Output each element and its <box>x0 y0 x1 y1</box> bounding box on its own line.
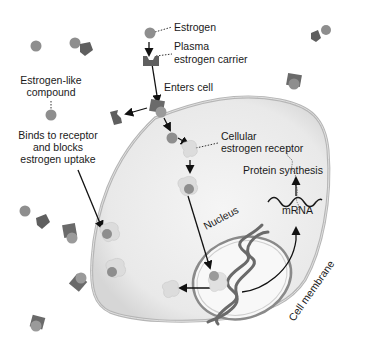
label-estrogen-receptor: estrogen receptor <box>221 142 304 154</box>
estrogen-like-compound-icon <box>46 110 57 121</box>
carrier-icon <box>36 214 50 229</box>
carrier-icon <box>80 42 93 56</box>
estrogen-molecule-icon <box>20 206 31 217</box>
estrogen-molecule-icon <box>76 273 87 284</box>
label-binds-to-receptor: Binds to receptor <box>18 129 98 141</box>
estrogen-molecule-icon <box>321 25 331 35</box>
released-carrier-icon <box>110 110 122 125</box>
label-mrna: mRNA <box>282 204 313 216</box>
estrogen-molecule-icon <box>70 38 81 49</box>
label-estrogen-like: Estrogen-like <box>20 74 81 86</box>
estrogen-molecule-icon <box>145 28 156 39</box>
label-estrogen-uptake: estrogen uptake <box>20 153 95 165</box>
label-compound: compound <box>26 86 75 98</box>
estrogen-molecule-icon <box>31 321 42 332</box>
label-plasma-carrier-2: estrogen carrier <box>174 53 248 65</box>
estrogen-pathway-diagram: Estrogen Plasma estrogen carrier Enters … <box>0 0 365 352</box>
estrogen-molecule-icon <box>67 233 78 244</box>
label-and-blocks: and blocks <box>33 141 83 153</box>
label-estrogen: Estrogen <box>174 21 216 33</box>
estrogen-molecule-icon <box>31 41 42 52</box>
receptor-returned-icon <box>162 280 179 297</box>
plasma-carrier-icon <box>143 56 159 66</box>
label-enters-cell: Enters cell <box>164 81 213 93</box>
label-plasma-carrier: Plasma <box>174 40 209 52</box>
cellular-receptor-icon <box>182 140 197 157</box>
carrier-icon <box>311 30 321 42</box>
label-cellular: Cellular <box>221 130 257 142</box>
estrogen-molecule-icon <box>289 79 300 90</box>
label-protein-synthesis: Protein synthesis <box>243 164 323 176</box>
